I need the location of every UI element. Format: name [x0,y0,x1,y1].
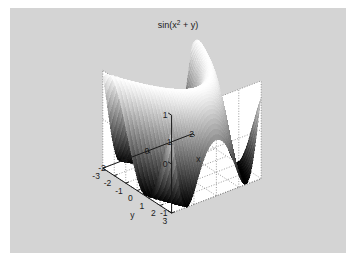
axis-label-x: x [196,154,201,164]
tick-label-y: 2 [151,208,156,218]
tick-label-x: -1 [121,154,129,164]
tick-label-z: 1 [163,110,168,120]
tick-label-x: 2 [189,129,194,139]
tick-label-y: 1 [140,201,145,211]
tick-label-x: 0 [144,146,149,156]
surface-plot-svg: -3-2-10123-2-1012-101yxsin(x2 + y) [10,8,346,253]
title-base: sin(x [158,20,178,30]
title-tail: + y) [180,20,198,30]
axis-label-y: y [130,210,135,220]
tick-label-y: 0 [128,193,133,203]
figure-canvas: -3-2-10123-2-1012-101yxsin(x2 + y) [10,8,346,253]
tick-label-x: -2 [98,163,106,173]
tick-label-y: -1 [115,186,123,196]
tick-label-x: 1 [167,137,172,147]
plot-title: sin(x2 + y) [158,19,198,30]
tick-label-y: -2 [104,178,112,188]
tick-label-z: -1 [160,208,168,218]
tick-label-z: 0 [163,159,168,169]
